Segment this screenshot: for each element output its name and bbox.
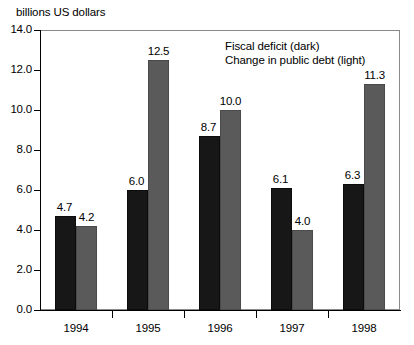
bar-fiscal-deficit [55, 216, 76, 310]
x-axis-tick-mark [328, 311, 329, 318]
y-axis-tick-label: 0.0 [2, 304, 32, 316]
x-axis-tick-label: 1994 [40, 322, 112, 334]
chart-legend: Fiscal deficit (dark) Change in public d… [225, 39, 365, 67]
x-axis-line [40, 310, 401, 311]
legend-item-change-in-public-debt: Change in public debt (light) [225, 53, 365, 67]
bar-change-in-public-debt [364, 84, 385, 310]
bar-fiscal-deficit [127, 190, 148, 310]
bar-change-in-public-debt [220, 110, 241, 310]
bar-value-label: 4.2 [71, 211, 102, 223]
y-axis-tick-mark [34, 310, 40, 311]
x-axis-tick-label: 1998 [328, 322, 400, 334]
bar-value-label: 10.0 [215, 95, 246, 107]
x-axis-tick-mark [184, 311, 185, 318]
bar-fiscal-deficit [343, 184, 364, 310]
y-axis-tick-label: 6.0 [2, 184, 32, 196]
y-axis-tick-label: 4.0 [2, 224, 32, 236]
bar-fiscal-deficit [271, 188, 292, 310]
plot-area: 4.74.26.012.58.710.06.14.06.311.3 [40, 30, 400, 310]
bar-change-in-public-debt [148, 60, 169, 310]
bar-chart: billions US dollars 0.02.04.06.08.010.01… [0, 0, 414, 345]
bar-change-in-public-debt [292, 230, 313, 310]
bar-fiscal-deficit [199, 136, 220, 310]
bar-value-label: 12.5 [143, 45, 174, 57]
x-axis-tick-label: 1995 [112, 322, 184, 334]
bar-value-label: 4.0 [287, 215, 318, 227]
y-axis-tick-label: 2.0 [2, 264, 32, 276]
legend-item-fiscal-deficit: Fiscal deficit (dark) [225, 39, 365, 53]
bar-value-label: 11.3 [359, 69, 390, 81]
y-axis-tick-label: 14.0 [2, 24, 32, 36]
y-axis-tick-label: 10.0 [2, 104, 32, 116]
x-axis-tick-mark [112, 311, 113, 318]
x-axis-tick-mark [256, 311, 257, 318]
y-axis-tick-label: 8.0 [2, 144, 32, 156]
chart-title: billions US dollars [16, 6, 106, 19]
x-axis-tick-label: 1996 [184, 322, 256, 334]
bar-change-in-public-debt [76, 226, 97, 310]
bar-value-label: 6.1 [265, 173, 296, 185]
x-axis-tick-label: 1997 [256, 322, 328, 334]
y-axis-tick-label: 12.0 [2, 64, 32, 76]
